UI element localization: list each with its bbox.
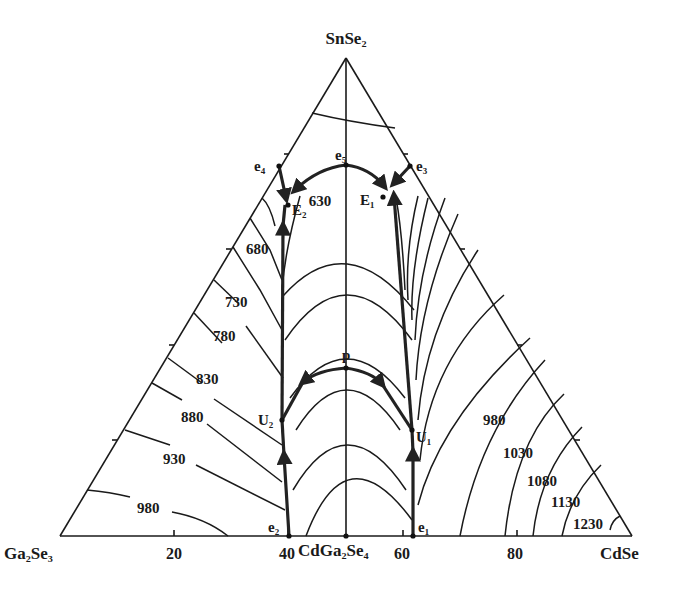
point-label-e1: e₁ [418, 519, 429, 535]
point-label-e5: e₅ [335, 147, 347, 163]
isotherm-label-830: 830 [196, 371, 219, 387]
vertex-label-ga2se3: Ga₂Se₃ [4, 544, 53, 563]
isotherm-label-1130: 1130 [551, 494, 580, 510]
isotherm-label-880: 880 [181, 409, 204, 425]
isotherm-label-1030: 1030 [503, 445, 533, 461]
tick-label-80: 80 [507, 545, 523, 562]
isotherm-label-730: 730 [225, 294, 248, 310]
point-label-U2: U₂ [258, 412, 274, 428]
vertex-label-cdse: CdSe [600, 544, 639, 563]
point-label-E2: E₂ [292, 202, 307, 218]
point-label-p: p [342, 347, 350, 363]
triangle-frame [60, 58, 632, 536]
isotherm-label-930: 930 [163, 451, 186, 467]
point-label-e4: e₄ [254, 158, 266, 174]
point-label-e2: e₂ [268, 519, 280, 535]
tick-label-40: 40 [279, 545, 295, 562]
isotherm-label-780: 780 [213, 328, 236, 344]
tick-label-20: 20 [166, 545, 182, 562]
isotherm-label-1080: 1080 [527, 473, 557, 489]
isotherm-label-630: 630 [309, 193, 332, 209]
isotherm-label-980-left: 980 [137, 500, 160, 516]
point-label-E1: E₁ [360, 192, 375, 208]
tick-label-60: 60 [394, 545, 410, 562]
point-label-U1: U₁ [416, 429, 431, 445]
point-label-e3: e₃ [416, 158, 428, 174]
isotherm-label-680: 680 [246, 241, 269, 257]
isotherm-label-980-right: 980 [483, 412, 506, 428]
compound-label-cdga2se4: CdGa₂Se₄ [298, 541, 369, 560]
right-edge [346, 58, 632, 536]
vertex-label-snse2: SnSe₂ [325, 29, 366, 48]
isotherm-label-1230: 1230 [573, 516, 603, 532]
ternary-phase-diagram: SnSe₂ Ga₂Se₃ CdSe CdGa₂Se₄ 20 40 60 80 e… [0, 0, 684, 589]
left-edge [60, 58, 346, 536]
